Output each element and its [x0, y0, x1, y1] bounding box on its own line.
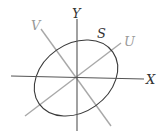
- x-axis-label: X: [145, 72, 156, 87]
- ellipse-axes-diagram: Y V S U X: [0, 0, 165, 137]
- ellipse-label: S: [97, 26, 106, 41]
- v-axis-label: V: [31, 18, 42, 33]
- y-axis-label: Y: [72, 6, 82, 21]
- u-axis-label: U: [124, 34, 136, 49]
